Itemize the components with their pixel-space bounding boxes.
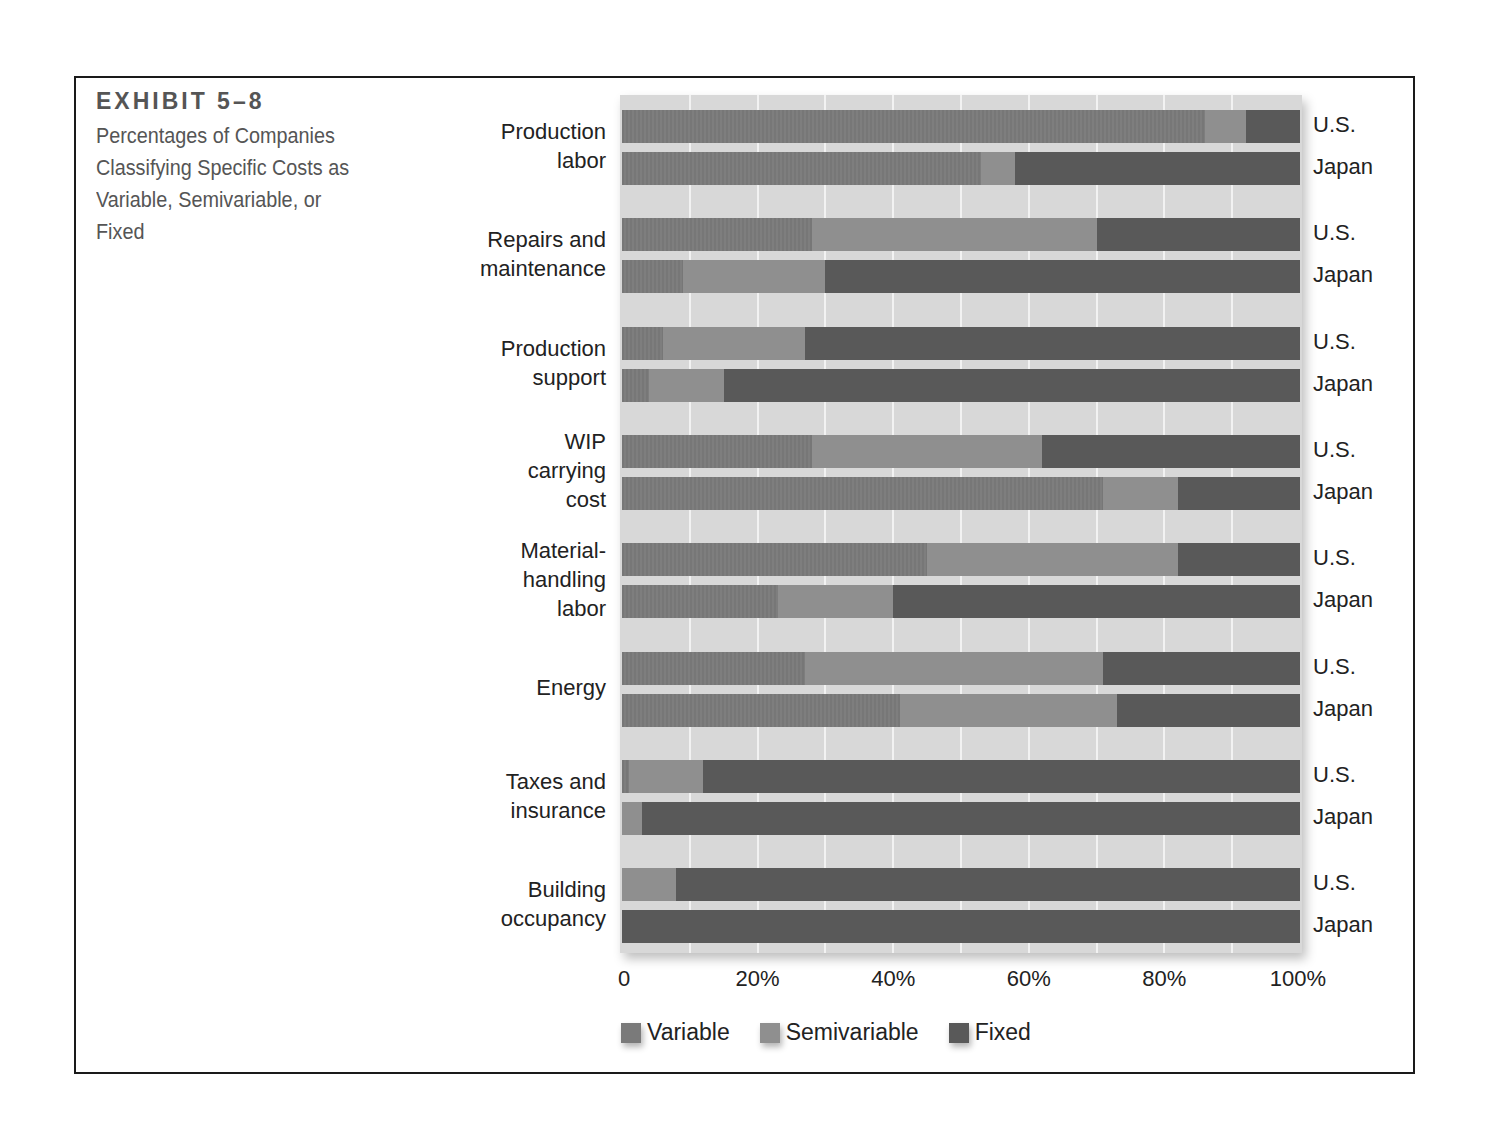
- legend-label: Semivariable: [786, 1019, 919, 1046]
- bar-us: [622, 435, 1300, 468]
- country-label: U.S.: [1313, 437, 1356, 463]
- bar-us: [622, 218, 1300, 251]
- bar-japan: [622, 694, 1300, 727]
- bar-japan: [622, 585, 1300, 618]
- semivariable-swatch-icon: [760, 1023, 780, 1043]
- x-tick-label: 40%: [871, 966, 915, 992]
- segment-fixed: [724, 369, 1300, 402]
- chart-title: Percentages of Companies Classifying Spe…: [96, 120, 366, 248]
- segment-semivariable: [629, 760, 704, 793]
- country-label: U.S.: [1313, 654, 1356, 680]
- x-tick-label: 0: [618, 966, 630, 992]
- segment-fixed: [1097, 218, 1300, 251]
- segment-fixed: [1103, 652, 1300, 685]
- segment-fixed: [1178, 477, 1300, 510]
- legend-label: Variable: [647, 1019, 730, 1046]
- segment-fixed: [642, 802, 1300, 835]
- segment-variable: [622, 369, 649, 402]
- segment-variable: [622, 218, 812, 251]
- segment-variable: [622, 152, 981, 185]
- segment-fixed: [1117, 694, 1300, 727]
- segment-fixed: [703, 760, 1300, 793]
- segment-variable: [622, 694, 900, 727]
- country-label: Japan: [1313, 154, 1373, 180]
- category-label: WIPcarryingcost: [528, 427, 606, 514]
- segment-variable: [622, 260, 683, 293]
- country-label: U.S.: [1313, 112, 1356, 138]
- bar-japan: [622, 260, 1300, 293]
- legend-item-fixed: Fixed: [949, 1019, 1031, 1046]
- bar-japan: [622, 369, 1300, 402]
- segment-semivariable: [622, 868, 676, 901]
- segment-variable: [622, 760, 629, 793]
- segment-semivariable: [663, 327, 805, 360]
- exhibit-label: EXHIBIT 5–8: [96, 88, 265, 115]
- country-label: Japan: [1313, 479, 1373, 505]
- segment-semivariable: [927, 543, 1178, 576]
- country-label: U.S.: [1313, 762, 1356, 788]
- plot-area: [620, 95, 1302, 953]
- segment-fixed: [805, 327, 1300, 360]
- legend: Variable Semivariable Fixed: [621, 1019, 1061, 1046]
- segment-fixed: [622, 910, 1300, 943]
- bar-japan: [622, 477, 1300, 510]
- bar-japan: [622, 910, 1300, 943]
- segment-variable: [622, 435, 812, 468]
- x-tick-label: 80%: [1142, 966, 1186, 992]
- segment-variable: [622, 477, 1103, 510]
- bar-us: [622, 868, 1300, 901]
- segment-variable: [622, 327, 663, 360]
- variable-swatch-icon: [621, 1023, 641, 1043]
- country-label: Japan: [1313, 587, 1373, 613]
- country-label: U.S.: [1313, 329, 1356, 355]
- segment-semivariable: [900, 694, 1117, 727]
- category-label: Energy: [536, 673, 606, 702]
- country-label: U.S.: [1313, 220, 1356, 246]
- category-label: Taxes andinsurance: [506, 767, 606, 825]
- legend-item-semivariable: Semivariable: [760, 1019, 919, 1046]
- segment-fixed: [825, 260, 1300, 293]
- country-label: Japan: [1313, 262, 1373, 288]
- segment-semivariable: [805, 652, 1103, 685]
- segment-fixed: [1042, 435, 1300, 468]
- segment-semivariable: [622, 802, 642, 835]
- country-label: Japan: [1313, 804, 1373, 830]
- segment-semivariable: [1205, 110, 1246, 143]
- segment-semivariable: [778, 585, 893, 618]
- country-label: Japan: [1313, 371, 1373, 397]
- country-label: Japan: [1313, 912, 1373, 938]
- bar-japan: [622, 802, 1300, 835]
- bar-us: [622, 327, 1300, 360]
- legend-item-variable: Variable: [621, 1019, 730, 1046]
- category-label: Buildingoccupancy: [501, 875, 606, 933]
- x-tick-label: 20%: [736, 966, 780, 992]
- segment-semivariable: [981, 152, 1015, 185]
- category-label: Material-handlinglabor: [520, 536, 606, 623]
- segment-variable: [622, 652, 805, 685]
- country-label: Japan: [1313, 696, 1373, 722]
- segment-fixed: [1246, 110, 1300, 143]
- segment-semivariable: [812, 218, 1097, 251]
- segment-fixed: [1015, 152, 1300, 185]
- country-label: U.S.: [1313, 870, 1356, 896]
- segment-variable: [622, 110, 1205, 143]
- bar-japan: [622, 152, 1300, 185]
- bar-us: [622, 760, 1300, 793]
- bar-us: [622, 110, 1300, 143]
- segment-fixed: [893, 585, 1300, 618]
- segment-semivariable: [1103, 477, 1178, 510]
- category-label: Productionlabor: [501, 117, 606, 175]
- category-label: Productionsupport: [501, 334, 606, 392]
- bar-us: [622, 652, 1300, 685]
- legend-label: Fixed: [975, 1019, 1031, 1046]
- segment-variable: [622, 543, 927, 576]
- segment-semivariable: [649, 369, 724, 402]
- category-label: Repairs andmaintenance: [480, 225, 606, 283]
- x-tick-label: 60%: [1007, 966, 1051, 992]
- fixed-swatch-icon: [949, 1023, 969, 1043]
- segment-fixed: [676, 868, 1300, 901]
- segment-semivariable: [683, 260, 825, 293]
- segment-semivariable: [812, 435, 1043, 468]
- x-tick-label: 100%: [1270, 966, 1326, 992]
- segment-variable: [622, 585, 778, 618]
